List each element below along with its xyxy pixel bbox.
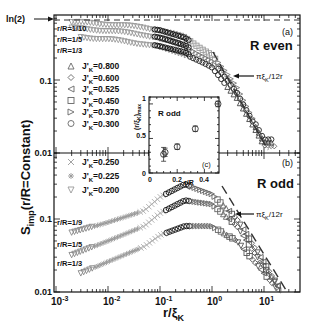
asymptote-label-b: πξK/12r xyxy=(235,210,283,221)
asymptote-label-a: πξK/12r xyxy=(233,72,283,83)
svg-text:10-2: 10-2 xyxy=(103,295,120,307)
svg-text:πξK/12r: πξK/12r xyxy=(256,210,283,221)
asymptote-line-b xyxy=(222,186,286,290)
curve-label-1-3: r/R=1/3 xyxy=(57,46,82,55)
ln2-arrowhead xyxy=(48,17,54,22)
inset-y-label: (r/ξK)max xyxy=(133,104,142,130)
panel-b-data xyxy=(69,182,281,293)
panel-c-label: (c) xyxy=(202,160,211,169)
svg-text:J'K=0.600: J'K=0.600 xyxy=(82,73,120,85)
legend-bottom: J'K=0.250J'K=0.225J'K=0.200 xyxy=(68,157,120,197)
ln2-label: ln(2) xyxy=(6,14,25,24)
curve-label-1-5: r/R=1/5 xyxy=(57,35,82,44)
inset-panel-c: R odd (c) 0 0.5 1 0 0.2 0.4 r/R (r/ξK)ma… xyxy=(133,95,221,186)
svg-text:J'K=0.525: J'K=0.525 xyxy=(82,84,120,96)
asymptote-line-a xyxy=(213,52,268,150)
svg-text:J'K=0.800: J'K=0.800 xyxy=(82,61,120,73)
x-axis-label: r/ξK xyxy=(163,305,184,323)
ytick-0.01-b: 0.01 xyxy=(34,287,52,297)
curve-label-1-3-odd: r/R=1/3 xyxy=(57,259,82,268)
svg-text:πξK/12r: πξK/12r xyxy=(256,72,283,83)
curve-label-1-10: r/R=1/10 xyxy=(57,24,86,33)
r-even-title: R even xyxy=(250,38,293,53)
ytick-0.1-b: 0.1 xyxy=(39,214,52,224)
inset-x-label: r/R xyxy=(184,179,194,186)
svg-text:J'K=0.450: J'K=0.450 xyxy=(82,96,120,108)
curve-label-1-9: r/R=1/9 xyxy=(57,218,82,227)
svg-text:J'K=0.250: J'K=0.250 xyxy=(82,157,120,169)
legend-top: J'K=0.800J'K=0.600J'K=0.525J'K=0.450J'K=… xyxy=(68,61,120,131)
inset-xtick-0: 0 xyxy=(148,176,152,183)
inset-xtick-04: 0.4 xyxy=(199,176,209,183)
panel-a-label: (a) xyxy=(282,27,293,37)
figure: ln(2) πξK/12r πξK/12r (a) (b) R even R o… xyxy=(0,0,314,332)
ytick-0.01-a: 0.01 xyxy=(34,148,52,158)
svg-text:J'K=0.200: J'K=0.200 xyxy=(82,185,120,197)
svg-text:J'K=0.300: J'K=0.300 xyxy=(82,119,120,131)
inset-ytick-05: 0.5 xyxy=(136,132,146,139)
svg-text:101: 101 xyxy=(259,295,274,307)
inset-title: R odd xyxy=(158,109,181,118)
y-axis-label: Simp(r/R=Constant) xyxy=(18,120,36,235)
svg-text:100: 100 xyxy=(207,295,222,307)
r-odd-title: R odd xyxy=(257,176,294,191)
ytick-0.1-a: 0.1 xyxy=(39,76,52,86)
svg-text:10-3: 10-3 xyxy=(51,295,68,307)
curve-label-1-5-odd: r/R=1/5 xyxy=(57,240,82,249)
inset-ytick-1: 1 xyxy=(142,95,146,102)
inset-ytick-0: 0 xyxy=(142,170,146,177)
svg-text:J'K=0.225: J'K=0.225 xyxy=(82,171,120,183)
panel-b-label: (b) xyxy=(282,158,293,168)
svg-text:J'K=0.370: J'K=0.370 xyxy=(82,107,120,119)
inset-xtick-02: 0.2 xyxy=(172,176,182,183)
